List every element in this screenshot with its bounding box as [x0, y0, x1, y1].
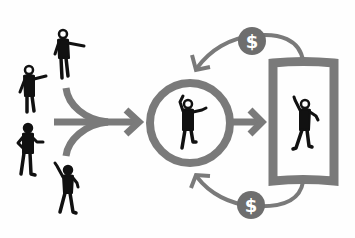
- merge-arrow: [54, 88, 139, 156]
- selected-person-icon: [180, 96, 206, 148]
- diagram-svg: $ $: [0, 0, 355, 238]
- dollar-icon: $: [246, 31, 259, 52]
- arrow-to-portrait: [229, 110, 262, 134]
- person-icon-3: [18, 124, 43, 175]
- coin-bottom: $: [237, 191, 265, 219]
- dollar-icon: $: [245, 195, 258, 216]
- coin-top: $: [238, 27, 266, 55]
- person-icon-1: [55, 30, 84, 78]
- person-icon-2: [20, 66, 46, 112]
- person-icon-4: [55, 163, 78, 213]
- diagram-canvas: $ $: [0, 0, 355, 238]
